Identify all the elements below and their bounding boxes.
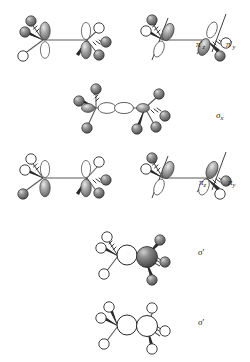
structure-pi-z — [18, 154, 111, 199]
label-subscript: y — [233, 181, 236, 188]
label-subscript: x — [220, 114, 223, 121]
label-pi-prime-y: π′y — [226, 40, 235, 50]
structure-sigma-x — [74, 84, 170, 134]
label-subscript: y — [232, 43, 235, 50]
label-pi-y: πy — [228, 178, 235, 188]
label-sigma-prime-1: σ′ — [198, 248, 204, 258]
core-atoms — [117, 245, 158, 268]
structure-pi-prime-y — [141, 14, 231, 61]
wedge-bonds — [27, 31, 88, 56]
wedge-bonds — [27, 169, 88, 195]
atom-spheres — [18, 16, 111, 61]
sigma-overlap-lobes — [82, 102, 150, 113]
structure-sigma-prime-1 — [96, 232, 170, 285]
structure-sigma-prime-2 — [96, 302, 170, 354]
label-sigma-prime-2: σ′ — [198, 318, 204, 328]
structure-pi-y — [141, 152, 231, 199]
molecular-orbital-figure — [0, 0, 250, 362]
structure-pi-prime-z — [18, 16, 111, 61]
label-sigma-x: σx — [216, 111, 223, 121]
label-subscript: z — [202, 43, 205, 50]
atom-spheres — [18, 154, 111, 199]
label-pi-prime-z: π′z — [196, 40, 205, 50]
p-orbital-lobes — [40, 160, 91, 196]
label-pi-z: πz — [199, 178, 206, 188]
label-subscript: z — [204, 181, 207, 188]
label-prime: ′ — [202, 247, 204, 257]
core-atoms — [117, 315, 158, 337]
label-prime: ′ — [202, 317, 204, 327]
